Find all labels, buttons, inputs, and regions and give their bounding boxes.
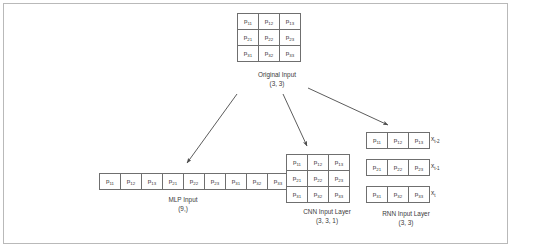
cell-text: p13 [148, 177, 156, 184]
cell-text: p13 [335, 158, 343, 165]
diagram-canvas: p11 p12 p13 p21 p22 p23 p31 p32 p33 Orig… [0, 0, 535, 251]
cell-text: p22 [314, 174, 322, 181]
cell: p22 [184, 174, 205, 190]
cell-text: p12 [394, 136, 402, 143]
cell: p31 [287, 187, 308, 203]
cell-text: p22 [394, 163, 402, 170]
table-row: p11 p12 p13 [367, 133, 430, 149]
rnn-timestep-label: xt [431, 190, 435, 196]
cell-text: p11 [106, 177, 114, 184]
rnn-timestep-row: p31 p32 p33 [366, 186, 430, 203]
cell: p13 [142, 174, 163, 190]
cell: p12 [388, 133, 409, 149]
cell: p31 [367, 187, 388, 203]
table-row: p11 p12 p13 [238, 14, 301, 30]
mlp-input-caption: MLP Input (9,) [128, 195, 238, 214]
cell-text: p32 [394, 190, 402, 197]
rnn-timestep-label: xt-2 [431, 136, 440, 142]
mlp-input-grid: p11 p12 p13 p21 p22 p23 p31 p32 p33 [99, 173, 289, 190]
cell: p11 [287, 155, 308, 171]
cell: p21 [163, 174, 184, 190]
cell-text: p33 [286, 49, 294, 56]
cell: p23 [329, 171, 350, 187]
cell: p23 [280, 30, 301, 46]
cell-text: p31 [232, 177, 240, 184]
cell: p12 [259, 14, 280, 30]
cell: p33 [329, 187, 350, 203]
original-input-caption: Original Input (3, 3) [222, 70, 332, 89]
original-input-grid: p11 p12 p13 p21 p22 p23 p31 p32 p33 [237, 13, 301, 62]
cell: p11 [367, 133, 388, 149]
rnn-timestep-row: p11 p12 p13 [366, 132, 430, 149]
cell-text: p23 [211, 177, 219, 184]
table-row: p21 p22 p23 [238, 30, 301, 46]
cell: p33 [409, 187, 430, 203]
cell: p31 [238, 46, 259, 62]
cell: p13 [329, 155, 350, 171]
cell-text: p23 [415, 163, 423, 170]
cell-text: p12 [314, 158, 322, 165]
table-row: p31 p32 p33 [238, 46, 301, 62]
cell: p22 [388, 160, 409, 176]
cell-text: p32 [253, 177, 261, 184]
cell: p33 [280, 46, 301, 62]
cell: p23 [205, 174, 226, 190]
cell-text: p21 [293, 174, 301, 181]
cell-text: p23 [335, 174, 343, 181]
cell: p32 [259, 46, 280, 62]
cell: p13 [280, 14, 301, 30]
table-row: p11 p12 p13 p21 p22 p23 p31 p32 p33 [100, 174, 289, 190]
cell-text: p11 [293, 158, 301, 165]
table-row: p21 p22 p23 [287, 171, 350, 187]
table-row: p31 p32 p33 [367, 187, 430, 203]
cell: p22 [308, 171, 329, 187]
cell-text: p33 [274, 177, 282, 184]
rnn-timestep-label: xt-1 [431, 163, 440, 169]
cell: p12 [308, 155, 329, 171]
cell-text: p23 [286, 33, 294, 40]
cell: p22 [259, 30, 280, 46]
cell: p12 [121, 174, 142, 190]
table-row: p31 p32 p33 [287, 187, 350, 203]
cell-text: p32 [265, 49, 273, 56]
cell-text: p33 [415, 190, 423, 197]
cell-text: p32 [314, 190, 322, 197]
cell-text: p12 [265, 17, 273, 24]
cell-text: p13 [286, 17, 294, 24]
cell-text: p31 [373, 190, 381, 197]
cell: p31 [226, 174, 247, 190]
cell-text: p22 [265, 33, 273, 40]
table-row: p21 p22 p23 [367, 160, 430, 176]
cell-text: p22 [190, 177, 198, 184]
cell: p32 [247, 174, 268, 190]
cell-text: p21 [169, 177, 177, 184]
cell-text: p21 [373, 163, 381, 170]
cell: p21 [367, 160, 388, 176]
rnn-input-caption: RNN Input Layer (3, 3) [351, 209, 461, 228]
cell-text: p12 [127, 177, 135, 184]
cell: p32 [308, 187, 329, 203]
cell: p13 [409, 133, 430, 149]
cell-text: p31 [293, 190, 301, 197]
table-row: p11 p12 p13 [287, 155, 350, 171]
cell: p32 [388, 187, 409, 203]
cell-text: p21 [244, 33, 252, 40]
cell: p23 [409, 160, 430, 176]
cell: p11 [100, 174, 121, 190]
cell-text: p31 [244, 49, 252, 56]
cell-text: p11 [244, 17, 252, 24]
cell: p21 [287, 171, 308, 187]
rnn-timestep-row: p21 p22 p23 [366, 159, 430, 176]
cell-text: p33 [335, 190, 343, 197]
cell: p21 [238, 30, 259, 46]
cnn-input-grid: p11 p12 p13 p21 p22 p23 p31 p32 p33 [286, 154, 350, 203]
cell: p11 [238, 14, 259, 30]
cell-text: p13 [415, 136, 423, 143]
cell-text: p11 [373, 136, 381, 143]
